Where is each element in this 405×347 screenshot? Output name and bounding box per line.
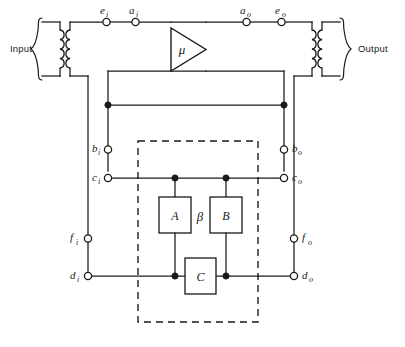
terminal-fo-base: f	[302, 231, 307, 243]
amplifier-triangle	[171, 28, 206, 71]
terminal-di-circle[interactable]	[84, 272, 91, 279]
middle-rail	[105, 102, 287, 146]
terminal-ei-label: e i	[100, 4, 108, 19]
output-secondary-coil	[318, 30, 322, 68]
terminal-fi-sub: i	[76, 238, 78, 247]
terminal-ci-sub: i	[98, 177, 100, 186]
terminal-fo-sub: o	[308, 238, 312, 247]
terminal-di-base: d	[70, 269, 76, 281]
terminal-ei-base: e	[100, 4, 105, 16]
input-port-group: Input	[10, 18, 42, 80]
terminal-do-base: d	[302, 269, 308, 281]
input-bracket	[31, 18, 42, 80]
component-c-group: C	[185, 258, 216, 294]
output-bracket	[340, 18, 351, 80]
terminal-ei-circle[interactable]	[103, 18, 110, 25]
terminal-fi-base: f	[70, 231, 75, 243]
terminal-do-circle[interactable]	[290, 272, 297, 279]
amplifier-group: μ	[171, 22, 243, 71]
terminal-ci-circle[interactable]	[104, 174, 111, 181]
terminal-ei-sub: i	[106, 10, 108, 19]
output-primary-coil	[312, 30, 316, 68]
output-port-label: Output	[358, 43, 388, 54]
terminal-bi-label: b i	[92, 142, 100, 157]
terminal-ci-base: c	[92, 171, 97, 183]
terminal-ai-sub: i	[136, 10, 138, 19]
terminal-ao-sub: o	[247, 10, 251, 19]
terminal-fi-circle[interactable]	[84, 235, 91, 242]
terminal-co-sub: o	[298, 177, 302, 186]
terminal-eo-base: e	[275, 4, 280, 16]
terminal-co-base: c	[292, 171, 297, 183]
terminal-fo-label: f o	[302, 231, 312, 247]
terminal-bo-circle[interactable]	[280, 146, 287, 153]
terminal-do-label: d o	[302, 269, 313, 284]
input-primary-coil	[60, 30, 64, 68]
component-c-label: C	[196, 270, 205, 284]
terminal-ai-base: a	[129, 4, 135, 16]
terminal-ci-label: c i	[92, 171, 100, 186]
terminal-bi-circle[interactable]	[104, 146, 111, 153]
terminal-ai-circle[interactable]	[132, 18, 139, 25]
output-port-group: Output	[340, 18, 388, 80]
terminal-eo-circle[interactable]	[278, 18, 285, 25]
terminal-eo-label: e o	[275, 4, 286, 19]
circuit-diagram-canvas: Input μ	[0, 0, 405, 347]
terminal-ao-label: a o	[240, 4, 251, 19]
terminal-bi-sub: i	[98, 148, 100, 157]
amplifier-return-rail	[108, 71, 284, 105]
terminal-di-sub: i	[77, 275, 79, 284]
terminal-bo-sub: o	[298, 148, 302, 157]
terminal-ao-base: a	[240, 4, 246, 16]
feedback-beta-label: β	[196, 209, 204, 224]
c-rail	[108, 175, 281, 181]
input-transformer	[42, 22, 103, 76]
input-secondary-coil	[66, 30, 70, 68]
terminal-di-label: d i	[70, 269, 79, 284]
circuit-schematic-svg: Input μ	[0, 0, 405, 347]
terminal-do-sub: o	[309, 275, 313, 284]
amplifier-mu-label: μ	[178, 42, 186, 57]
terminal-ao-circle[interactable]	[243, 18, 250, 25]
terminal-co-circle[interactable]	[280, 174, 287, 181]
terminal-fo-circle[interactable]	[290, 235, 297, 242]
component-a-label: A	[170, 209, 179, 223]
input-port-label: Input	[10, 43, 32, 54]
junction-right-middle	[281, 102, 287, 108]
terminal-eo-sub: o	[282, 10, 286, 19]
component-b-label: B	[222, 209, 230, 223]
junction-left-middle	[105, 102, 111, 108]
terminal-fi-label: f i	[70, 231, 78, 247]
terminal-ai-label: a i	[129, 4, 138, 19]
output-transformer	[294, 22, 340, 76]
